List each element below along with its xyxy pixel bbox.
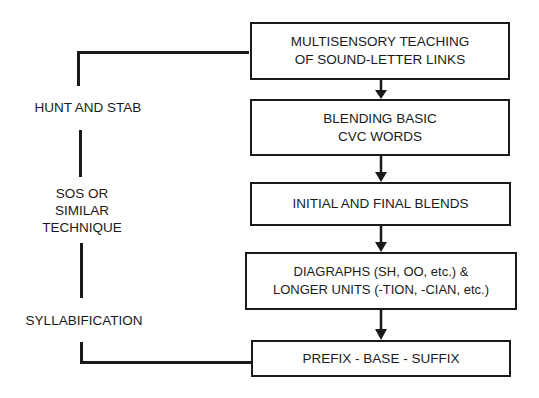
box-prefix-base-suffix: PREFIX - BASE - SUFFIX: [251, 340, 511, 377]
bracket-vertical-segment: [79, 130, 82, 177]
box-text: DIAGRAPHS (SH, OO, etc.) &: [294, 263, 469, 281]
box-text: MULTISENSORY TEACHING: [291, 33, 469, 51]
box-initial-final-blends: INITIAL AND FINAL BLENDS: [250, 182, 511, 226]
bracket-bottom-horizontal: [80, 361, 252, 364]
box-multisensory-teaching: MULTISENSORY TEACHING OF SOUND-LETTER LI…: [250, 22, 510, 80]
bracket-vertical-segment: [77, 51, 80, 86]
label-line: SIMILAR: [30, 202, 134, 219]
box-blending-cvc: BLENDING BASIC CVC WORDS: [250, 99, 510, 156]
box-text: INITIAL AND FINAL BLENDS: [292, 195, 468, 213]
bracket-vertical-segment: [80, 243, 83, 298]
arrow-down-icon: [374, 310, 388, 340]
box-text: LONGER UNITS (-TION, -CIAN, etc.): [273, 281, 489, 299]
box-diagraphs-longer-units: DIAGRAPHS (SH, OO, etc.) & LONGER UNITS …: [245, 252, 517, 310]
label-hunt-and-stab: HUNT AND STAB: [24, 99, 152, 116]
box-text: BLENDING BASIC: [323, 110, 436, 128]
box-text: OF SOUND-LETTER LINKS: [295, 51, 465, 69]
label-syllabification: SYLLABIFICATION: [22, 312, 146, 329]
arrow-down-icon: [374, 156, 388, 182]
bracket-top-horizontal: [77, 51, 249, 54]
label-line: SOS OR: [30, 185, 134, 202]
arrow-down-icon: [374, 80, 388, 100]
arrow-down-icon: [374, 226, 388, 252]
label-line: TECHNIQUE: [30, 219, 134, 236]
box-text: CVC WORDS: [338, 128, 422, 146]
label-sos-technique: SOS OR SIMILAR TECHNIQUE: [30, 185, 134, 236]
bracket-vertical-segment: [80, 342, 83, 363]
box-text: PREFIX - BASE - SUFFIX: [303, 350, 460, 368]
